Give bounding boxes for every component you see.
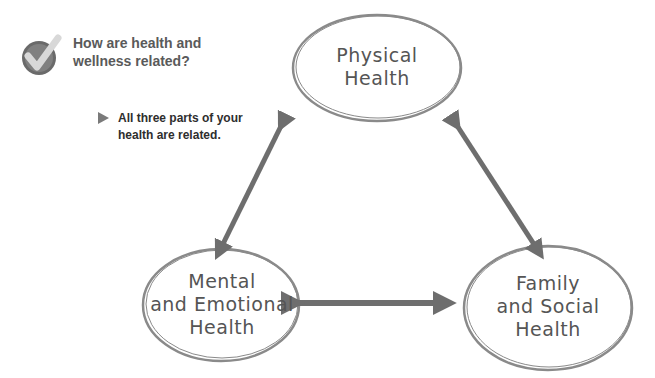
question-line-2: wellness related? bbox=[73, 52, 253, 70]
note-line-1: All three parts of your bbox=[118, 110, 288, 127]
label-line: Health bbox=[307, 67, 447, 90]
checkmark-icon bbox=[18, 32, 64, 82]
caption-note: All three parts of your health are relat… bbox=[118, 110, 288, 144]
node-mental-label: Mental and Emotional Health bbox=[146, 270, 298, 339]
question-line-1: How are health and bbox=[73, 34, 253, 52]
note-line-2: health are related. bbox=[118, 127, 288, 144]
node-family-label: Family and Social Health bbox=[478, 272, 618, 341]
label-line: and Emotional bbox=[146, 293, 298, 316]
label-line: Physical bbox=[307, 44, 447, 67]
label-line: Health bbox=[146, 316, 298, 339]
arrow-physical-family bbox=[456, 124, 539, 252]
triangle-bullet-icon bbox=[98, 112, 109, 124]
node-physical-label: Physical Health bbox=[307, 44, 447, 90]
section-question: How are health and wellness related? bbox=[73, 34, 253, 70]
label-line: Health bbox=[478, 318, 618, 341]
label-line: Mental bbox=[146, 270, 298, 293]
label-line: Family bbox=[478, 272, 618, 295]
label-line: and Social bbox=[478, 295, 618, 318]
